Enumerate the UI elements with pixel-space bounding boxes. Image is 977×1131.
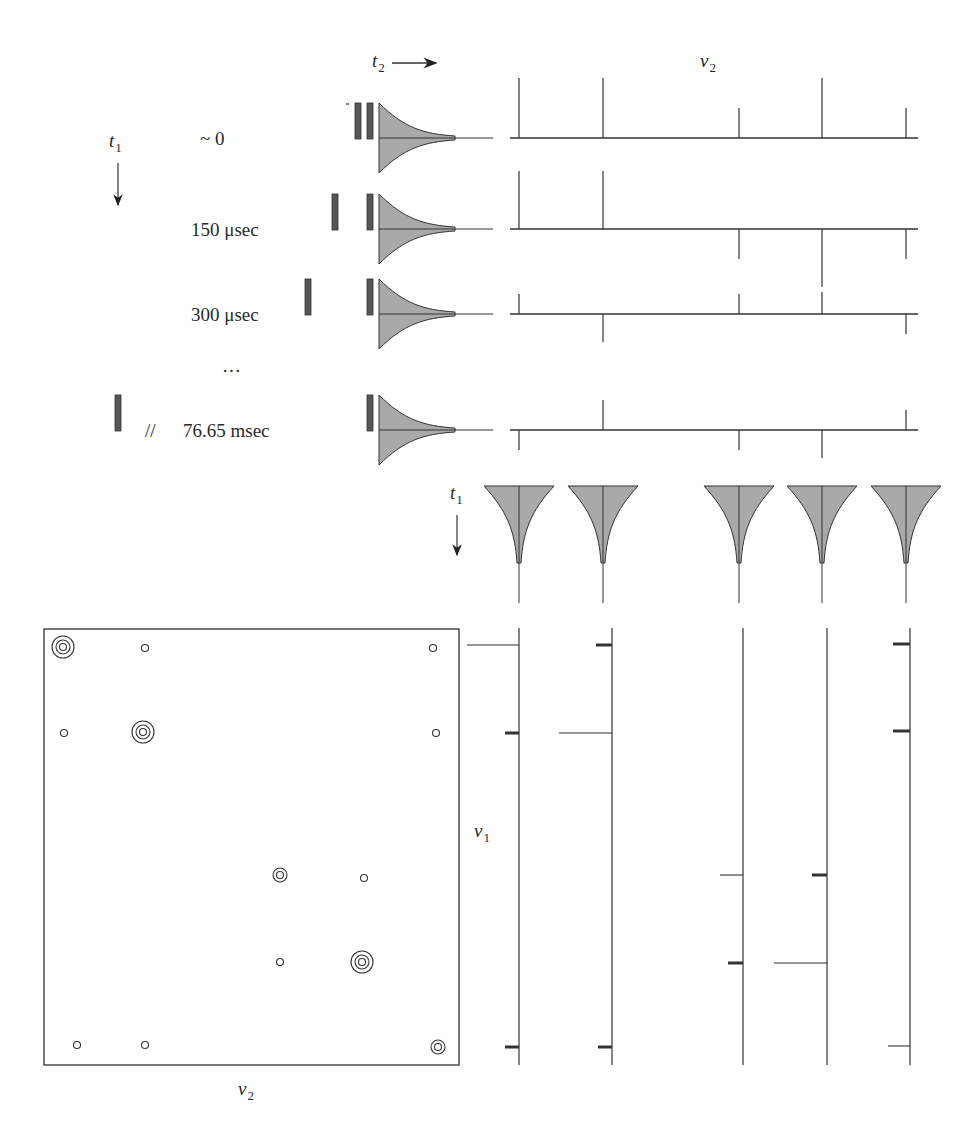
- pulse-2-bar: [367, 194, 373, 230]
- diagram-canvas: [0, 0, 977, 1131]
- contour-peak-ring: [355, 955, 369, 969]
- pulse-2-bar: [367, 103, 373, 139]
- contour-peak-ring: [435, 1044, 442, 1051]
- pulse-1-bar: [332, 194, 338, 230]
- contour-peak-ring: [142, 1042, 149, 1049]
- contour-peak-ring: [361, 875, 368, 882]
- contour-peak-ring: [142, 645, 149, 652]
- contour-peak-ring: [61, 730, 68, 737]
- contour-peak-ring: [430, 645, 437, 652]
- contour-peak-ring: [140, 729, 147, 736]
- t1-mid-axis-label: t1: [450, 482, 463, 504]
- contour-map-frame: [44, 629, 459, 1065]
- contour-peak-ring: [351, 951, 373, 973]
- contour-peak-ring: [56, 640, 70, 654]
- pulse-1-bar: [305, 279, 311, 315]
- pulse-1-bar: [355, 103, 361, 139]
- pulse-2-bar: [367, 395, 373, 431]
- contour-peak-ring: [359, 959, 366, 966]
- contour-peak-ring: [136, 725, 150, 739]
- ellipsis-label: …: [222, 355, 241, 377]
- break-mark-label: //: [145, 420, 156, 442]
- contour-peak-ring: [433, 730, 440, 737]
- contour-peak-ring: [60, 644, 67, 651]
- contour-peak-ring: [273, 868, 287, 882]
- contour-peak-ring: [277, 872, 284, 879]
- nu2-top-axis-label: ν2: [700, 50, 716, 72]
- contour-peak-ring: [74, 1042, 81, 1049]
- contour-peak-ring: [277, 959, 284, 966]
- delay-label-row-1: ~ 0: [200, 128, 225, 150]
- delay-label-row-3: 300 μsec: [191, 304, 259, 326]
- t1-left-axis-label: t1: [109, 130, 122, 152]
- delay-label-row-4: 76.65 msec: [183, 420, 270, 442]
- nu1-axis-label: ν1: [474, 820, 490, 842]
- contour-peak-ring: [431, 1040, 445, 1054]
- t2-axis-label: t2: [372, 50, 385, 72]
- contour-peak-ring: [132, 721, 154, 743]
- nmr-2d-diagram: t2 ν2 t1 t1 ν1 ν2 ~ 0 150 μsec 300 μsec …: [0, 0, 977, 1131]
- nu2-bottom-axis-label: ν2: [238, 1078, 254, 1100]
- pulse-2-bar: [367, 279, 373, 315]
- contour-peak-ring: [52, 636, 74, 658]
- delay-label-row-2: 150 μsec: [191, 219, 259, 241]
- pulse-1-bar: [115, 395, 121, 431]
